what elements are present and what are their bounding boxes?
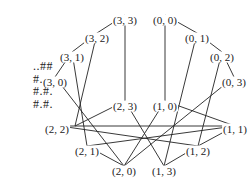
graph-node: (0, 2) — [209, 52, 235, 63]
graph-edge — [198, 52, 222, 146]
graph-edge — [72, 52, 87, 146]
graph-node: (1, 2) — [185, 146, 211, 157]
graph-node: (0, 1) — [184, 33, 210, 44]
grid-row: #.#. — [33, 98, 53, 111]
graph-node: (0, 0) — [152, 15, 178, 26]
graph-node: (1, 3) — [151, 166, 177, 177]
graph-node: (2, 0) — [111, 166, 137, 177]
grid-row: ..## — [33, 60, 53, 73]
graph-edge — [87, 126, 235, 146]
graph-node: (2, 3) — [112, 101, 138, 112]
graph-node: (1, 1) — [222, 124, 248, 135]
graph-node: (3, 2) — [84, 33, 110, 44]
graph-node: (3, 3) — [112, 15, 138, 26]
graph-node: (1, 0) — [152, 101, 178, 112]
graph-node: (0, 3) — [221, 77, 247, 88]
graph-edge — [60, 126, 198, 146]
graph-edge — [124, 77, 234, 166]
graph-node: (3, 0) — [42, 77, 68, 88]
graph-node: (3, 1) — [59, 52, 85, 63]
graph-node: (2, 1) — [74, 146, 100, 157]
graph-node: (2, 2) — [44, 124, 70, 135]
